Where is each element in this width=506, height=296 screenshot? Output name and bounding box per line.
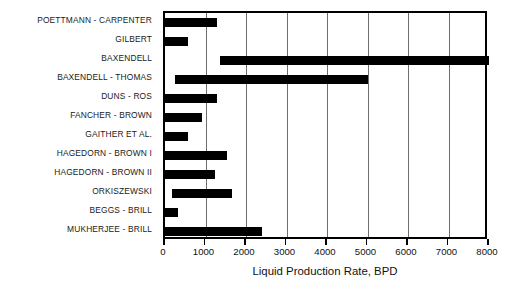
- x-tick: [366, 239, 368, 245]
- category-label: BEGGS - BRILL: [0, 206, 152, 214]
- bar: [165, 132, 188, 141]
- category-label: BAXENDELL: [0, 54, 152, 62]
- bar: [165, 94, 217, 103]
- x-tick: [244, 239, 246, 245]
- x-tick-label: 7000: [436, 247, 457, 257]
- category-label: BAXENDELL - THOMAS: [0, 73, 152, 81]
- x-tick: [325, 239, 327, 245]
- bar: [165, 151, 227, 160]
- x-tick: [285, 239, 287, 245]
- category-label: HAGEDORN - BROWN I: [0, 149, 152, 157]
- bar: [165, 227, 262, 236]
- x-tick-label: 6000: [395, 247, 416, 257]
- x-tick-label: 3000: [274, 247, 295, 257]
- bar: [165, 113, 202, 122]
- bar: [165, 37, 188, 46]
- x-tick-label: 2000: [233, 247, 254, 257]
- bar: [165, 18, 217, 27]
- category-label: POETTMANN - CARPENTER: [0, 16, 152, 24]
- category-label: FANCHER - BROWN: [0, 111, 152, 119]
- bar: [165, 208, 178, 217]
- category-label: MUKHERJEE - BRILL: [0, 225, 152, 233]
- x-tick: [447, 239, 449, 245]
- category-label: GAITHER ET AL.: [0, 130, 152, 138]
- category-label: GILBERT: [0, 35, 152, 43]
- x-tick: [204, 239, 206, 245]
- bar: [220, 56, 489, 65]
- bars-group: [165, 13, 485, 237]
- x-tick-label: 8000: [476, 247, 497, 257]
- x-tick-label: 5000: [355, 247, 376, 257]
- x-axis-ticks: [163, 239, 487, 245]
- x-axis-tick-labels: 010002000300040005000600070008000: [163, 247, 487, 261]
- bar: [175, 75, 367, 84]
- category-label: HAGEDORN - BROWN II: [0, 168, 152, 176]
- category-label: DUNS - ROS: [0, 92, 152, 100]
- x-tick-label: 4000: [314, 247, 335, 257]
- category-axis-labels: POETTMANN - CARPENTERGILBERTBAXENDELLBAX…: [0, 11, 152, 239]
- bar: [172, 189, 232, 198]
- x-tick: [406, 239, 408, 245]
- x-axis-title: Liquid Production Rate, BPD: [163, 266, 487, 277]
- category-label: ORKISZEWSKI: [0, 187, 152, 195]
- bar: [165, 170, 215, 179]
- x-tick-label: 0: [160, 247, 165, 257]
- plot-area: [163, 11, 487, 239]
- bar-chart-figure: POETTMANN - CARPENTERGILBERTBAXENDELLBAX…: [0, 0, 506, 296]
- x-tick: [487, 239, 489, 245]
- x-tick: [163, 239, 165, 245]
- x-tick-label: 1000: [193, 247, 214, 257]
